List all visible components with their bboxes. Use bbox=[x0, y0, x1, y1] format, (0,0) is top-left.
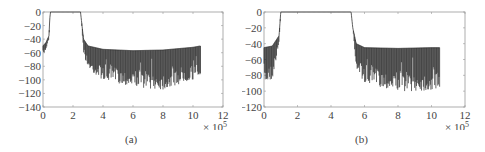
x-tick-label: 4 bbox=[328, 109, 334, 121]
x-tick-label: 10 bbox=[188, 109, 200, 121]
y-tick-label: −140 bbox=[18, 101, 41, 113]
caption-a: (a) bbox=[125, 133, 137, 145]
x-tick-label: 0 bbox=[261, 109, 267, 121]
x-tick-label: 4 bbox=[100, 109, 106, 121]
response-trace bbox=[264, 12, 440, 91]
y-tick-label: 0 bbox=[36, 6, 42, 18]
y-tick-label: −80 bbox=[245, 69, 263, 81]
y-tick-label: −60 bbox=[245, 54, 263, 66]
y-tick-label: −60 bbox=[24, 47, 42, 59]
y-tick-label: −40 bbox=[245, 38, 263, 50]
x-exponent-label: × 105 bbox=[203, 120, 227, 130]
y-tick-label: 0 bbox=[257, 6, 263, 18]
caption-b: (b) bbox=[355, 133, 368, 145]
y-tick-label: −100 bbox=[18, 74, 41, 86]
x-tick-label: 8 bbox=[160, 109, 166, 121]
x-tick-label: 2 bbox=[70, 109, 76, 121]
y-tick-label: −40 bbox=[24, 33, 42, 45]
figure-panel-b: 0246810120−20−40−60−80−100−120× 105 bbox=[242, 0, 485, 152]
y-tick-label: −120 bbox=[18, 87, 41, 99]
x-tick-label: 2 bbox=[295, 109, 301, 121]
chart-a: 0246810120−20−40−60−80−100−120−140× 105 bbox=[0, 0, 242, 130]
chart-b: 0246810120−20−40−60−80−100−120× 105 bbox=[242, 0, 485, 130]
x-tick-label: 0 bbox=[40, 109, 46, 121]
x-exponent-label: × 105 bbox=[445, 120, 469, 130]
figure-panel-a: 0246810120−20−40−60−80−100−120−140× 105 bbox=[0, 0, 242, 152]
y-tick-label: −20 bbox=[24, 20, 42, 32]
y-tick-label: −20 bbox=[245, 22, 263, 34]
x-tick-label: 10 bbox=[426, 109, 438, 121]
response-trace bbox=[43, 12, 201, 89]
y-tick-label: −80 bbox=[24, 60, 42, 72]
y-tick-label: −100 bbox=[242, 85, 262, 97]
x-tick-label: 6 bbox=[362, 109, 368, 121]
x-tick-label: 8 bbox=[395, 109, 401, 121]
x-tick-label: 6 bbox=[130, 109, 136, 121]
y-tick-label: −120 bbox=[242, 101, 262, 113]
